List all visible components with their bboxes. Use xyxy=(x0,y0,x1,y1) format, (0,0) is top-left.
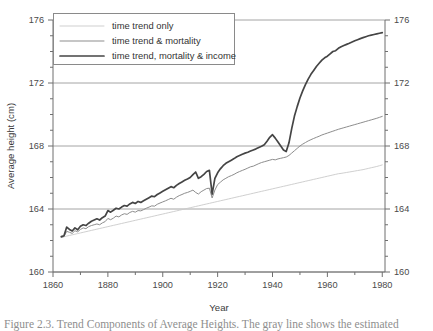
y-axis-ticks-left xyxy=(48,20,53,272)
y-axis-title: Average height (cm) xyxy=(5,103,16,189)
y-tick-label-right: 172 xyxy=(394,78,409,88)
y-axis-tick-labels-right: 160164168172176 xyxy=(394,15,409,277)
x-tick-label: 1960 xyxy=(317,280,337,290)
x-tick-label: 1940 xyxy=(262,280,282,290)
y-axis-tick-labels-left: 160164168172176 xyxy=(29,15,44,277)
legend-label-0: time trend only xyxy=(112,20,174,31)
y-axis-ticks-right xyxy=(385,20,390,272)
y-tick-label-right: 176 xyxy=(394,15,409,25)
y-tick-label-right: 160 xyxy=(394,267,409,277)
x-tick-label: 1980 xyxy=(372,280,392,290)
legend: time trend onlytime trend & mortalitytim… xyxy=(54,14,237,65)
legend-label-2: time trend, mortality & income xyxy=(112,50,236,61)
y-tick-label-left: 176 xyxy=(29,15,44,25)
x-axis-tick-labels: 1860188019001920194019601980 xyxy=(43,280,393,290)
y-tick-label-left: 164 xyxy=(29,204,44,214)
y-tick-label-right: 164 xyxy=(394,204,409,214)
x-tick-label: 1880 xyxy=(98,280,118,290)
x-axis-title: Year xyxy=(209,302,229,313)
x-axis-ticks xyxy=(53,272,382,277)
x-tick-label: 1920 xyxy=(207,280,227,290)
y-tick-label-right: 168 xyxy=(394,141,409,151)
y-tick-label-left: 172 xyxy=(29,78,44,88)
figure-caption: Figure 2.3. Trend Components of Average … xyxy=(4,318,430,331)
x-tick-label: 1860 xyxy=(43,280,63,290)
legend-label-1: time trend & mortality xyxy=(112,35,201,46)
x-tick-label: 1900 xyxy=(153,280,173,290)
y-tick-label-left: 160 xyxy=(29,267,44,277)
y-tick-label-left: 168 xyxy=(29,141,44,151)
